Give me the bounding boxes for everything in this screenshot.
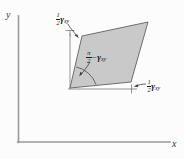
fraction-pi-over-two: π 2: [86, 50, 92, 66]
label-half-gamma-xy-right: 1 2 γxy: [147, 76, 160, 94]
fraction-denominator: 2: [86, 57, 92, 65]
fraction-numerator: π: [86, 50, 92, 57]
deformed-element-polygon: [70, 22, 148, 88]
gamma-subscript: xy: [101, 56, 106, 62]
gamma-subscript: xy: [64, 18, 69, 24]
y-axis-label: y: [6, 10, 10, 20]
right-label-arrowhead: [134, 84, 139, 87]
x-axis-label: x: [172, 139, 176, 149]
label-half-gamma-xy-top: 1 2 γxy: [56, 9, 69, 27]
label-pi-over-two-minus-gamma-xy: π 2 −γxy: [86, 47, 106, 65]
shear-strain-figure: 1 2 γxy π 2 −γxy 1 2 γxy y x: [0, 0, 184, 159]
top-label-arrowhead: [75, 34, 79, 38]
gamma-subscript: xy: [155, 85, 160, 91]
